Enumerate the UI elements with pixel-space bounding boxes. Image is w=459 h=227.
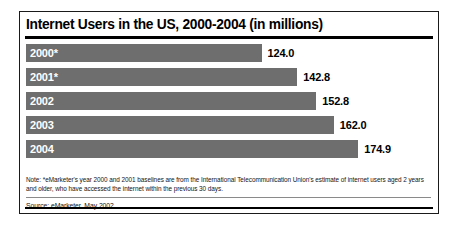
bar-category-label: 2004	[30, 140, 54, 158]
bar-row: 2000*124.0	[26, 44, 438, 62]
bar-value-label: 124.0	[268, 44, 295, 62]
bar	[26, 44, 262, 62]
bar-row: 2002152.8	[26, 92, 438, 110]
chart-title-block: Internet Users in the US, 2000-2004 (in …	[20, 12, 438, 37]
bottom-divider	[25, 207, 433, 209]
page-title: Internet Users in the US, 2000-2004 (in …	[26, 16, 417, 33]
title-divider	[25, 36, 433, 39]
bar	[26, 116, 334, 134]
bar-value-label: 152.8	[322, 92, 349, 110]
bar-category-label: 2002	[30, 92, 54, 110]
chart-note: Note: *eMarketer's year 2000 and 2001 ba…	[26, 176, 431, 193]
bar-category-label: 2001*	[30, 68, 58, 86]
bar-category-label: 2003	[30, 116, 54, 134]
bar	[26, 92, 316, 110]
bar-value-label: 142.8	[303, 68, 330, 86]
bar-category-label: 2000*	[30, 44, 58, 62]
bar-chart-plot: 2000*124.02001*142.82002152.82003162.020…	[20, 44, 438, 168]
chart-footer: Note: *eMarketer's year 2000 and 2001 ba…	[20, 176, 438, 210]
footer-divider	[26, 197, 431, 198]
chart-figure: Internet Users in the US, 2000-2004 (in …	[19, 11, 439, 214]
bar-value-label: 162.0	[340, 116, 367, 134]
bar-value-label: 174.9	[364, 140, 391, 158]
bar	[26, 68, 297, 86]
bar	[26, 140, 358, 158]
bar-row: 2001*142.8	[26, 68, 438, 86]
bar-row: 2003162.0	[26, 116, 438, 134]
bar-row: 2004174.9	[26, 140, 438, 158]
